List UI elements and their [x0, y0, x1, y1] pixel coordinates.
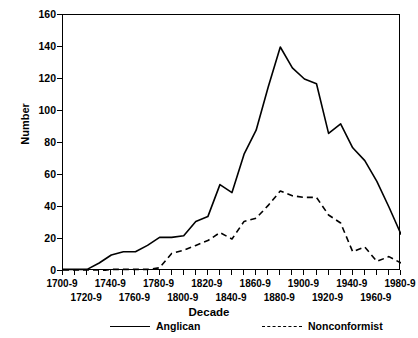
x-axis-tick-mark	[376, 270, 377, 275]
x-axis-tick-label: 1820-9	[191, 278, 222, 289]
x-axis-tick-mark	[340, 270, 341, 275]
x-axis-tick-mark	[255, 270, 256, 275]
x-axis-tick-mark	[183, 270, 184, 275]
x-axis-tick-mark	[352, 270, 353, 275]
legend-swatch-solid-line	[110, 326, 150, 327]
x-axis-tick-mark	[86, 270, 87, 275]
x-axis-tick-mark	[279, 270, 280, 275]
x-axis-tick-mark	[267, 270, 268, 275]
x-axis-tick-label: 1900-9	[288, 278, 319, 289]
x-axis-tick-label: 1920-9	[312, 292, 343, 303]
legend-label-anglican: Anglican	[156, 320, 200, 332]
chart-legend: Anglican Nonconformist	[0, 320, 418, 336]
x-axis-tick-mark	[231, 270, 232, 275]
x-axis-tick-label: 1700-9	[46, 278, 77, 289]
plot-area	[62, 14, 400, 270]
x-axis-tick-mark	[388, 270, 389, 275]
y-axis-tick-label: 80	[0, 137, 56, 147]
x-axis-tick-mark	[303, 270, 304, 275]
y-axis-tick-label: 140	[0, 41, 56, 51]
x-axis-tick-label: 1740-9	[95, 278, 126, 289]
x-axis-tick-mark	[62, 270, 63, 275]
x-axis-tick-label: 1840-9	[215, 292, 246, 303]
x-axis-title: Decade	[0, 306, 418, 318]
x-axis-tick-mark	[316, 270, 317, 275]
legend-swatch-dashed-line	[262, 326, 302, 327]
legend-label-nonconformist: Nonconformist	[308, 320, 383, 332]
line-series-anglican	[63, 47, 401, 269]
x-axis-tick-mark	[171, 270, 172, 275]
x-axis-tick-mark	[147, 270, 148, 275]
y-axis-tick-label: 100	[0, 105, 56, 115]
y-axis-tick-label: 120	[0, 73, 56, 83]
x-axis-tick-label: 1780-9	[143, 278, 174, 289]
legend-item-anglican: Anglican	[110, 320, 200, 332]
x-axis-tick-label: 1760-9	[119, 292, 150, 303]
x-axis-tick-mark	[195, 270, 196, 275]
y-axis-tick-label: 40	[0, 201, 56, 211]
x-axis-tick-mark	[122, 270, 123, 275]
y-axis-tick-label: 60	[0, 169, 56, 179]
x-axis-tick-label: 1800-9	[167, 292, 198, 303]
x-axis-tick-mark	[219, 270, 220, 275]
y-axis-title: Number	[19, 79, 31, 169]
x-axis-tick-mark	[400, 270, 401, 275]
x-axis-tick-mark	[364, 270, 365, 275]
chart-figure: Number 020406080100120140160 1700-91720-…	[0, 0, 418, 338]
x-axis-tick-label: 1860-9	[240, 278, 271, 289]
legend-item-nonconformist: Nonconformist	[262, 320, 383, 332]
x-axis-tick-label: 1960-9	[360, 292, 391, 303]
x-axis-tick-label: 1980-9	[384, 278, 415, 289]
x-axis-tick-mark	[110, 270, 111, 275]
series-canvas	[63, 15, 401, 271]
x-axis-tick-mark	[243, 270, 244, 275]
x-axis-tick-mark	[291, 270, 292, 275]
y-axis-tick-label: 160	[0, 9, 56, 19]
y-axis-tick-label: 20	[0, 233, 56, 243]
x-axis-tick-label: 1940-9	[336, 278, 367, 289]
x-axis-tick-mark	[98, 270, 99, 275]
line-series-nonconformist	[63, 191, 401, 271]
x-axis-tick-mark	[74, 270, 75, 275]
x-axis-tick-mark	[207, 270, 208, 275]
x-axis-tick-label: 1720-9	[71, 292, 102, 303]
y-axis-tick-label: 0	[0, 265, 56, 275]
x-axis-tick-label: 1880-9	[264, 292, 295, 303]
x-axis-tick-mark	[328, 270, 329, 275]
x-axis-tick-mark	[134, 270, 135, 275]
x-axis-tick-mark	[159, 270, 160, 275]
